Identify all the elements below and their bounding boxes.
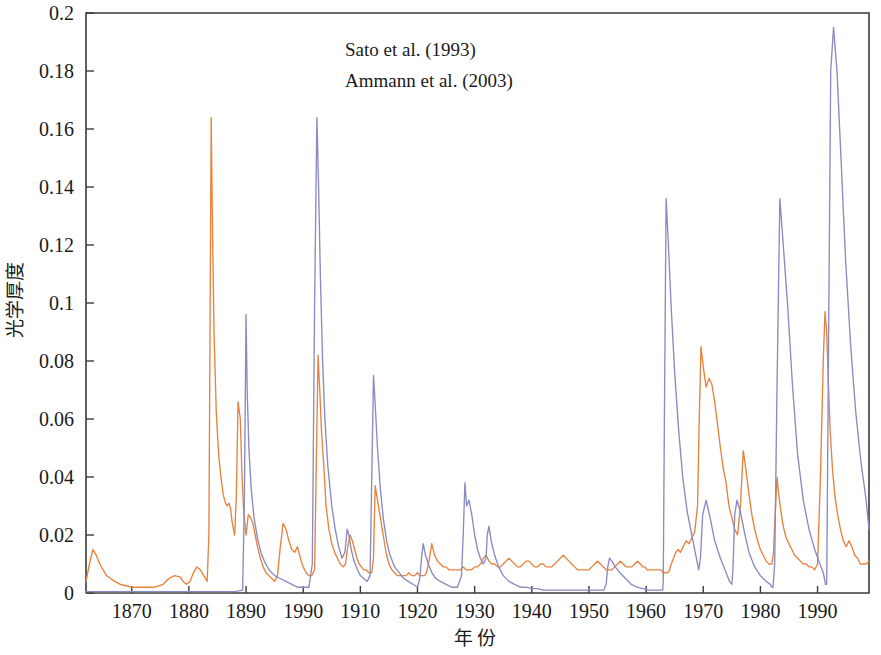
x-axis-tick-label: 1990: [283, 600, 323, 622]
x-axis-tick-label: 1910: [340, 600, 380, 622]
chart-figure: 00.020.040.060.080.10.120.140.160.180.2 …: [0, 0, 881, 655]
x-axis-tick-label: 1930: [455, 600, 495, 622]
x-axis-title: 年 份: [454, 628, 497, 649]
y-axis-tick-label: 0.06: [39, 408, 74, 430]
legend-item-sato: Sato et al. (1993): [345, 39, 476, 61]
y-axis-tick-label: 0.04: [39, 466, 74, 488]
y-axis-tick-label: 0.2: [49, 2, 74, 24]
y-axis-tick-label: 0.02: [39, 524, 74, 546]
legend-item-ammann: Ammann et al. (2003): [345, 70, 513, 92]
chart-background: [0, 0, 881, 655]
x-axis-tick-label: 1950: [569, 600, 609, 622]
y-axis-title: 光学厚度: [5, 262, 26, 338]
x-axis-tick-label: 1940: [512, 600, 552, 622]
y-axis-tick-label: 0.16: [39, 118, 74, 140]
y-axis-tick-label: 0.08: [39, 350, 74, 372]
x-axis-tick-label: 1960: [626, 600, 666, 622]
y-axis-tick-label: 0.14: [39, 176, 74, 198]
y-axis-tick-label: 0.18: [39, 60, 74, 82]
x-axis-tick-label: 1870: [112, 600, 152, 622]
x-axis-tick-label: 1980: [740, 600, 780, 622]
volcanic-optical-depth-chart: 00.020.040.060.080.10.120.140.160.180.2 …: [0, 0, 881, 655]
y-axis-tick-label: 0: [64, 582, 74, 604]
y-axis-tick-label: 0.12: [39, 234, 74, 256]
x-axis-tick-label: 1920: [397, 600, 437, 622]
x-axis-tick-label: 1990: [798, 600, 838, 622]
x-axis-tick-label: 1880: [169, 600, 209, 622]
y-axis-tick-label: 0.1: [49, 292, 74, 314]
x-axis-tick-label: 1970: [683, 600, 723, 622]
x-axis-tick-label: 1890: [226, 600, 266, 622]
